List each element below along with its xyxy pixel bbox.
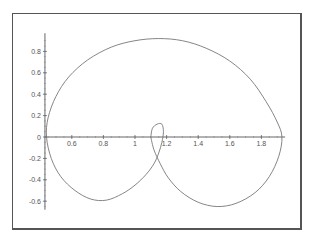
x-tick-label: 1.6 <box>225 140 235 147</box>
x-tick-label: 0.8 <box>99 140 109 147</box>
x-tick-label: 1.8 <box>257 140 267 147</box>
x-tick-label: 1.2 <box>162 140 172 147</box>
x-tick-label: 1 <box>133 140 137 147</box>
y-tick-label: 0.2 <box>31 112 41 119</box>
x-tick-label: 1.4 <box>193 140 203 147</box>
chart-svg: 0.60.811.21.41.61.80.80.60.40.20-0.2-0.4… <box>0 0 316 240</box>
y-tick-label: -0.4 <box>29 176 41 183</box>
axes <box>45 33 285 210</box>
series-layer <box>46 39 282 207</box>
y-tick-label: 0.8 <box>31 48 41 55</box>
y-tick-label: 0 <box>37 134 41 141</box>
y-tick-label: 0.6 <box>31 69 41 76</box>
y-tick-label: -0.2 <box>29 155 41 162</box>
ticks: 0.60.811.21.41.61.80.80.60.40.20-0.2-0.4… <box>29 41 277 207</box>
x-tick-label: 0.6 <box>67 140 77 147</box>
y-tick-label: 0.4 <box>31 91 41 98</box>
y-tick-label: -0.6 <box>29 198 41 205</box>
series-curve <box>46 39 282 207</box>
